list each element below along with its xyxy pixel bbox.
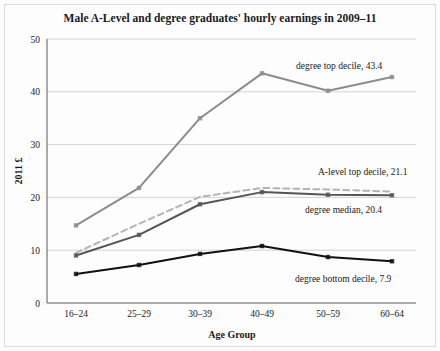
data-point xyxy=(198,252,202,256)
x-axis-title: Age Group xyxy=(208,329,256,340)
data-point xyxy=(74,253,78,257)
data-point xyxy=(260,244,264,248)
chart-title: Male A-Level and degree graduates' hourl… xyxy=(64,12,377,25)
data-point xyxy=(390,193,394,197)
y-tick-label: 20 xyxy=(31,193,41,203)
x-axis-tick-labels: 16–2425–2930–3940–4950–5960–64 xyxy=(64,309,404,319)
series-annotation: degree median, 20.4 xyxy=(305,205,382,215)
series-path xyxy=(76,73,392,225)
series-degree-bottom-decile xyxy=(74,244,394,276)
data-point xyxy=(137,263,141,267)
data-point xyxy=(326,255,330,259)
y-tick-label: 10 xyxy=(31,246,41,256)
y-tick-label: 0 xyxy=(35,299,40,309)
data-point xyxy=(260,190,264,194)
y-axis-title: 2011 £ xyxy=(13,158,24,185)
data-point xyxy=(390,75,394,79)
data-point xyxy=(198,202,202,206)
y-tick-label: 50 xyxy=(31,35,41,45)
data-point xyxy=(326,193,330,197)
x-tick-label: 60–64 xyxy=(380,309,404,319)
x-tick-label: 50–59 xyxy=(316,309,340,319)
y-tick-label: 40 xyxy=(31,87,41,97)
series-degree-median xyxy=(74,190,394,258)
data-point xyxy=(326,89,330,93)
data-point xyxy=(137,233,141,237)
series-annotation: A-level top decile, 21.1 xyxy=(318,167,408,177)
data-point xyxy=(74,223,78,227)
series-path xyxy=(76,192,392,255)
series-annotation: degree top decile, 43.4 xyxy=(296,61,383,71)
data-point xyxy=(390,259,394,263)
y-axis-tick-labels: 01020304050 xyxy=(31,35,41,309)
x-tick-label: 40–49 xyxy=(250,309,274,319)
chart-container: Male A-Level and degree graduates' hourl… xyxy=(0,0,440,351)
x-tick-label: 25–29 xyxy=(127,309,151,319)
data-point xyxy=(74,272,78,276)
series-annotation: degree bottom decile, 7.9 xyxy=(295,274,392,284)
data-point xyxy=(198,116,202,120)
earnings-line-chart: Male A-Level and degree graduates' hourl… xyxy=(0,0,440,351)
x-tick-label: 16–24 xyxy=(64,309,88,319)
data-point xyxy=(137,186,141,190)
x-tick-label: 30–39 xyxy=(188,309,212,319)
data-point xyxy=(260,71,264,75)
y-tick-label: 30 xyxy=(31,140,41,150)
